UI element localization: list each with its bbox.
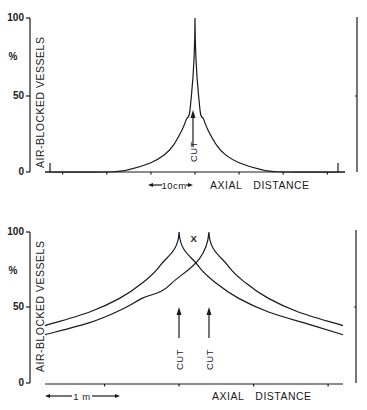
bottom-cut-label-a: CUT: [174, 349, 185, 370]
bottom-y-tick-label-100: 100: [7, 226, 24, 237]
bottom-scale-bar-right-arrowhead: [115, 394, 120, 398]
bottom-x-axis-title: AXIAL DISTANCE: [212, 390, 312, 402]
top-y-tick-label-0: 0: [18, 166, 24, 177]
top-panel: 100 50 0 % AIR-BLOCKED VESSELS CUT 10cm …: [7, 12, 357, 191]
bottom-y-tick-label-50: 50: [13, 301, 25, 312]
top-scale-bar-left-arrowhead: [148, 183, 153, 187]
bottom-y-unit: %: [9, 265, 18, 276]
top-y-unit: %: [9, 51, 18, 62]
bottom-y-axis-title: AIR-BLOCKED VESSELS: [34, 241, 46, 372]
figure: 100 50 0 % AIR-BLOCKED VESSELS CUT 10cm …: [0, 0, 367, 410]
bottom-scale-bar-left-arrowhead: [45, 394, 50, 398]
top-y-tick-label-100: 100: [7, 12, 24, 23]
top-x-axis-title: AXIAL DISTANCE: [210, 179, 310, 191]
top-scale-bar: 10cm: [148, 180, 193, 191]
bottom-series-line-cut-a: [45, 232, 343, 335]
bottom-scale-bar-label: 1 m: [73, 391, 90, 402]
bottom-y-tick-label-0: 0: [18, 377, 24, 388]
top-y-tick-label-50: 50: [13, 90, 25, 101]
bottom-cut-label-b: CUT: [204, 349, 215, 370]
top-scale-bar-label: 10cm: [161, 180, 186, 191]
bottom-intersection-label: X: [191, 233, 198, 244]
top-scale-bar-right-arrowhead: [188, 183, 193, 187]
bottom-cut-arrowhead-a: [177, 307, 182, 315]
bottom-series-line-cut-b: [45, 232, 343, 335]
bottom-cut-arrowhead-b: [207, 307, 212, 315]
top-cut-arrowhead: [191, 110, 196, 118]
bottom-panel: 100 50 0 % AIR-BLOCKED VESSELS X CUT CUT…: [7, 226, 356, 402]
top-y-axis-title: AIR-BLOCKED VESSELS: [34, 37, 46, 168]
bottom-scale-bar: 1 m: [45, 391, 120, 402]
top-cut-label: CUT: [188, 141, 199, 162]
